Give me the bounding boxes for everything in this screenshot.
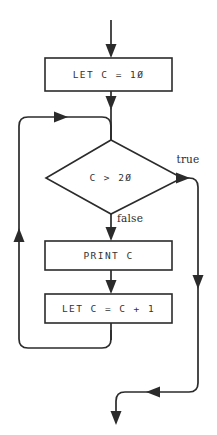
- increment-box-label: LET C = C + 1: [62, 303, 155, 314]
- branch-false: [106, 214, 117, 241]
- true-label: true: [176, 153, 199, 165]
- true-branch-arrowhead: [176, 173, 190, 184]
- false-branch-arrowhead: [106, 227, 117, 241]
- true-branch-left-arrowhead: [146, 387, 160, 398]
- flowchart-canvas: LET C = 1Ø C > 2Ø: [0, 0, 217, 435]
- condition-label: C > 2Ø: [89, 172, 132, 183]
- node-init[interactable]: LET C = 1Ø: [45, 58, 172, 91]
- false-label: false: [117, 212, 143, 224]
- exit-arrowhead: [111, 411, 122, 425]
- loopback-right-arrowhead: [54, 112, 68, 123]
- node-condition[interactable]: C > 2Ø: [46, 140, 182, 214]
- true-branch-down-arrowhead: [193, 275, 204, 289]
- flowchart-diagram: LET C = 1Ø C > 2Ø: [0, 0, 217, 435]
- init-box-label: LET C = 1Ø: [73, 69, 145, 80]
- loopback-up-arrowhead: [14, 228, 25, 242]
- node-print[interactable]: PRINT C: [45, 241, 172, 270]
- connector-print-to-increment: [106, 270, 117, 294]
- entry-arrow: [106, 20, 117, 58]
- node-increment[interactable]: LET C = C + 1: [45, 294, 172, 323]
- print-box-label: PRINT C: [83, 250, 133, 261]
